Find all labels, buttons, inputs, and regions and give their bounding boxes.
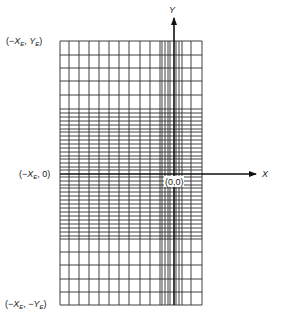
x-axis-label: X	[261, 169, 269, 179]
y-axis-label: Y	[169, 5, 176, 15]
computational-grid	[60, 41, 202, 305]
grid-diagram: (0,0) X Y (−XE, YE) (−XE, 0) (−XE, −YE)	[0, 0, 282, 316]
corner-label-top-left: (−XE, YE)	[6, 36, 42, 47]
edge-label-mid-left: (−XE, 0)	[19, 169, 50, 180]
origin-label: (0,0)	[165, 177, 184, 187]
corner-label-bottom-left: (−XE, −YE)	[5, 299, 47, 310]
